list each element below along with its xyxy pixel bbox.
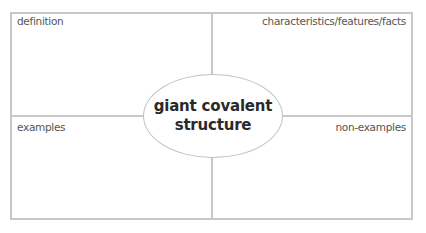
quadrant-label-examples: examples: [17, 121, 65, 133]
quadrant-label-definition: definition: [17, 15, 63, 27]
quadrant-label-characteristics: characteristics/features/facts: [262, 15, 406, 27]
center-concept-ellipse: giant covalent structure: [143, 74, 283, 158]
quadrant-label-non-examples: non-examples: [335, 121, 406, 133]
center-concept-line-2: structure: [175, 116, 252, 135]
center-concept-line-1: giant covalent: [154, 97, 273, 116]
